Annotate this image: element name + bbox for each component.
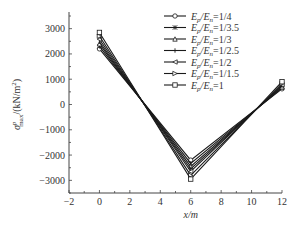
x-axis-label: x/m (182, 209, 197, 220)
legend-label: Ep/En=1 (190, 80, 224, 93)
y-axis-label: σpmax/(kN/m2) (10, 79, 25, 130)
x-tick-label: 4 (158, 196, 163, 207)
x-tick-label: −2 (64, 196, 75, 207)
square-marker-icon (173, 83, 177, 87)
x-tick-label: 6 (188, 196, 193, 207)
y-tick-label: −2000 (39, 150, 65, 161)
x-tick-label: 8 (219, 196, 224, 207)
triangle-left-marker-icon (173, 60, 177, 64)
x-tick-label: 0 (97, 196, 102, 207)
y-tick-label: 3000 (45, 23, 65, 34)
circle-marker-icon (173, 14, 177, 18)
y-tick-label: 0 (60, 99, 65, 110)
legend-item: Ep/En=1 (164, 80, 224, 93)
triangle-right-marker-icon (173, 71, 177, 75)
x-tick-label: 2 (127, 196, 132, 207)
y-tick-label: 2000 (45, 48, 65, 59)
triangle-up-marker-icon (173, 37, 177, 41)
x-tick-label: 12 (277, 196, 287, 207)
y-tick-label: −1000 (39, 124, 65, 135)
axis-labels: x/mσpmax/(kN/m2) (10, 79, 198, 220)
square-marker-icon (280, 80, 284, 84)
axes: −3000−2000−10000100020003000−2024681012 (39, 12, 287, 207)
square-marker-icon (189, 177, 193, 181)
legend: Ep/En=1/4Ep/En=1/3.5Ep/En=1/3Ep/En=1/2.5… (164, 11, 239, 93)
line-chart: −3000−2000−10000100020003000−2024681012 … (0, 0, 300, 226)
y-tick-label: 1000 (45, 74, 65, 85)
x-tick-label: 10 (247, 196, 257, 207)
square-marker-icon (97, 30, 101, 34)
y-tick-label: −3000 (39, 175, 65, 186)
